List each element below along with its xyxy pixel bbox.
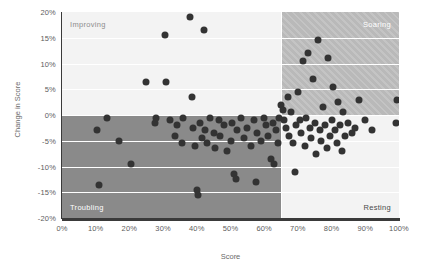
data-point: [337, 122, 344, 129]
data-point: [362, 117, 369, 124]
data-point: [171, 132, 178, 139]
data-point: [240, 135, 247, 142]
data-point: [161, 32, 168, 39]
data-point: [217, 132, 224, 139]
data-point: [303, 114, 310, 121]
y-tick-label: 20%: [40, 8, 56, 17]
gridline-horizontal: [62, 38, 399, 39]
data-point: [269, 119, 276, 126]
x-tick-label: 90%: [357, 224, 373, 233]
data-point: [128, 160, 135, 167]
x-tick-label: 30%: [155, 224, 171, 233]
x-tick-label: 80%: [324, 224, 340, 233]
data-point: [202, 127, 209, 134]
data-point: [257, 137, 264, 144]
data-point: [261, 114, 268, 121]
y-tick-label: -10%: [38, 162, 56, 171]
data-point: [116, 137, 123, 144]
data-point: [288, 109, 295, 116]
data-point: [301, 142, 308, 149]
data-point: [311, 119, 318, 126]
data-point: [330, 83, 337, 90]
data-point: [94, 127, 101, 134]
data-point: [294, 88, 301, 95]
data-point: [190, 124, 197, 131]
plot-area: Improving Soaring Troubling Resting: [62, 12, 399, 218]
data-point: [284, 93, 291, 100]
data-point: [392, 119, 399, 126]
data-point: [323, 145, 330, 152]
scatter-chart: 20%15%10%5%0%-5%-10%-15%-20% Improving S…: [0, 0, 423, 278]
data-point: [320, 104, 327, 111]
y-axis-tick-labels: 20%15%10%5%0%-5%-10%-15%-20%: [0, 12, 56, 218]
data-point: [232, 176, 239, 183]
data-point: [286, 132, 293, 139]
data-point: [338, 148, 345, 155]
data-point: [369, 127, 376, 134]
data-point: [313, 150, 320, 157]
data-point: [289, 140, 296, 147]
data-point: [166, 117, 173, 124]
y-tick-label: 5%: [45, 85, 56, 94]
data-point: [227, 137, 234, 144]
x-tick-label: 60%: [256, 224, 272, 233]
data-point: [352, 124, 359, 131]
data-point: [394, 96, 399, 103]
gridline-horizontal: [62, 89, 399, 90]
data-point: [178, 140, 185, 147]
data-point: [224, 148, 231, 155]
data-point: [197, 119, 204, 126]
data-point: [188, 93, 195, 100]
x-tick-label: 70%: [290, 224, 306, 233]
quadrant-label-resting: Resting: [363, 203, 391, 212]
data-point: [251, 117, 258, 124]
data-point: [283, 124, 290, 131]
data-point: [247, 142, 254, 149]
data-point: [318, 137, 325, 144]
data-point: [325, 55, 332, 62]
gridline-horizontal: [62, 167, 399, 168]
data-point: [187, 14, 194, 21]
data-point: [254, 130, 261, 137]
data-point: [281, 117, 288, 124]
data-point: [299, 57, 306, 64]
x-tick-label: 20%: [122, 224, 138, 233]
data-point: [153, 114, 160, 121]
data-point: [279, 106, 286, 113]
data-point: [274, 140, 281, 147]
data-point: [321, 122, 328, 129]
data-point: [192, 142, 199, 149]
data-point: [345, 119, 352, 126]
data-point: [305, 50, 312, 57]
data-point: [203, 140, 210, 147]
x-tick-label: 100%: [389, 224, 409, 233]
data-point: [104, 114, 111, 121]
data-point: [328, 117, 335, 124]
data-point: [229, 119, 236, 126]
x-tick-label: 0%: [56, 224, 67, 233]
y-tick-label: -20%: [38, 214, 56, 223]
x-tick-label: 50%: [223, 224, 239, 233]
quadrant-label-improving: Improving: [70, 20, 106, 29]
quadrant-label-troubling: Troubling: [70, 203, 104, 212]
data-point: [96, 181, 103, 188]
x-axis-title: Score: [62, 252, 399, 261]
data-point: [163, 78, 170, 85]
data-point: [234, 127, 241, 134]
data-point: [252, 178, 259, 185]
data-point: [173, 122, 180, 129]
y-axis-title: Change in Score: [13, 55, 22, 165]
x-tick-label: 10%: [88, 224, 104, 233]
data-point: [200, 27, 207, 34]
y-tick-label: 15%: [40, 33, 56, 42]
data-point: [264, 132, 271, 139]
data-point: [244, 124, 251, 131]
data-point: [271, 160, 278, 167]
data-point: [315, 37, 322, 44]
data-point: [207, 114, 214, 121]
quadrant-label-soaring: Soaring: [363, 20, 391, 29]
data-point: [335, 99, 342, 106]
gridline-horizontal: [62, 192, 399, 193]
y-tick-label: -5%: [42, 136, 56, 145]
data-point: [340, 109, 347, 116]
